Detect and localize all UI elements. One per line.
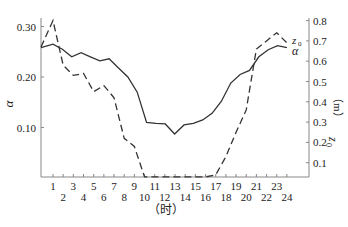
x-tick-label: 24 xyxy=(281,191,293,203)
right-axis-title-var-group: z 0 xyxy=(324,136,340,147)
right-axis-title-sub: 0 xyxy=(324,143,333,147)
x-tick-label: 10 xyxy=(139,191,151,203)
curve-label-alpha: α xyxy=(292,44,299,58)
left-tick-label: 0.10 xyxy=(17,122,37,134)
right-tick-label: 0.6 xyxy=(313,55,327,67)
x-tick-label: 9 xyxy=(132,180,138,192)
x-tick-label: 8 xyxy=(121,191,127,203)
series xyxy=(41,21,287,177)
z0-line xyxy=(41,21,287,177)
right-axis-title-var: z xyxy=(326,136,340,142)
x-tick-label: 16 xyxy=(200,191,212,203)
x-tick-label: 7 xyxy=(111,180,117,192)
diurnal-alpha-z0-chart: 0.100.200.300.10.20.30.40.50.60.70.81234… xyxy=(0,0,348,227)
right-tick-label: 0.1 xyxy=(313,157,327,169)
x-tick-label: 4 xyxy=(81,191,87,203)
axes: 0.100.200.300.10.20.30.40.50.60.70.81234… xyxy=(17,15,328,203)
x-tick-label: 22 xyxy=(261,191,272,203)
x-tick-label: 1 xyxy=(50,180,56,192)
x-tick-label: 20 xyxy=(241,191,253,203)
right-tick-label: 0.3 xyxy=(313,116,327,128)
right-tick-label: 0.4 xyxy=(313,96,327,108)
left-tick-label: 0.30 xyxy=(17,21,37,33)
x-axis-title: （时） xyxy=(148,203,184,217)
x-tick-label: 14 xyxy=(180,191,192,203)
right-axis-title-unit: （m） xyxy=(332,92,344,123)
left-tick-label: 0.20 xyxy=(17,71,37,83)
x-tick-label: 6 xyxy=(101,191,107,203)
x-tick-label: 18 xyxy=(220,191,232,203)
x-tick-label: 3 xyxy=(71,180,77,192)
right-axis-title: （m） xyxy=(332,92,344,123)
right-tick-label: 0.8 xyxy=(313,15,327,27)
left-axis-title: α xyxy=(1,99,16,107)
curve-label-z0-sub: 0 xyxy=(298,40,302,48)
x-tick-label: 12 xyxy=(159,191,170,203)
right-tick-label: 0.5 xyxy=(313,76,327,88)
x-tick-label: 2 xyxy=(60,191,66,203)
right-tick-label: 0.7 xyxy=(313,35,327,47)
x-tick-label: 5 xyxy=(91,180,97,192)
